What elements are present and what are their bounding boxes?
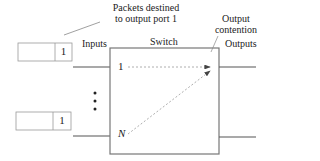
annotation-line-1: Packets destined	[104, 2, 188, 13]
contention-line-2: contention	[208, 24, 264, 35]
contention-line-1: Output	[208, 13, 264, 24]
queue-top-packet: 1	[55, 45, 72, 57]
outputs-label: Outputs	[225, 38, 257, 49]
switch-label: Switch	[150, 36, 178, 47]
input-port-N-label: N	[118, 128, 125, 139]
input-port-1-label: 1	[118, 61, 124, 72]
contention-annotation: Output contention	[208, 13, 264, 35]
packets-annotation: Packets destined to output port 1	[104, 2, 188, 24]
queue-bottom-packet: 1	[53, 114, 71, 126]
inputs-label: Inputs	[82, 38, 107, 49]
annotation-line-2: to output port 1	[104, 13, 188, 24]
annotation-pointer-line	[64, 22, 100, 35]
switch-box	[110, 48, 219, 154]
